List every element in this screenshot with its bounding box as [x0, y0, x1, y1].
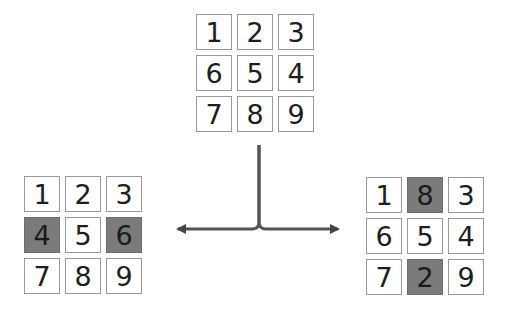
- split-arrow-icon: [178, 145, 338, 229]
- branch-arrows: [0, 0, 512, 309]
